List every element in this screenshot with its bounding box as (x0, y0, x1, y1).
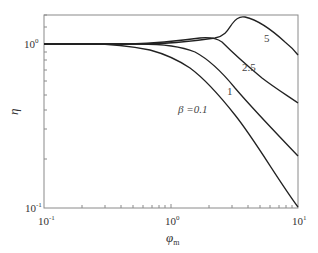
y-minor-ticks (44, 15, 48, 159)
label-beta-2-5: 2.5 (242, 61, 256, 73)
xtick-1: 100 (165, 214, 180, 227)
label-beta-1: 1 (227, 85, 233, 97)
curve-beta-2-5 (44, 38, 298, 103)
curve-beta-1 (44, 44, 298, 156)
x-axis-label: φm (166, 230, 180, 247)
ytick-0-1: 10-1 (25, 201, 42, 214)
ytick-1: 100 (24, 37, 39, 50)
xtick-10: 101 (292, 214, 307, 227)
y-axis-label: η (6, 109, 21, 115)
curve-beta-5 (44, 17, 298, 55)
x-minor-ticks (82, 204, 292, 208)
curve-beta-0-1 (44, 44, 298, 207)
line-chart: 5 2.5 1 β =0.1 100 10-1 10-1 100 101 η φ… (0, 0, 318, 253)
label-beta-5: 5 (264, 32, 270, 44)
curves (44, 17, 298, 207)
xtick-0-1: 10-1 (38, 214, 55, 227)
label-beta-0-1: β =0.1 (177, 103, 207, 115)
beta-symbol: β =0.1 (177, 103, 207, 115)
